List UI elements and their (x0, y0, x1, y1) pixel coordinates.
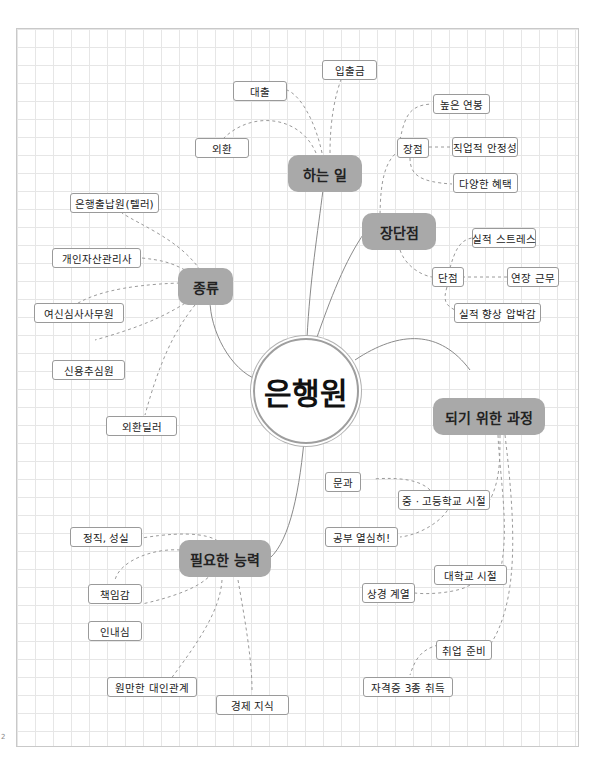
leaf-certificates[interactable]: 자격증 3종 취득 (363, 677, 453, 697)
leaf-label: 개인자산관리사 (62, 251, 132, 266)
leaf-label: 중 · 고등학교 시절 (402, 493, 485, 508)
leaf-job-stability[interactable]: 직업적 안정성 (452, 137, 518, 157)
leaf-label: 문과 (333, 475, 353, 490)
leaf-label: 대출 (250, 84, 270, 99)
leaf-honesty[interactable]: 정직, 성실 (70, 527, 142, 547)
sub-middle-high-school[interactable]: 중 · 고등학교 시절 (398, 490, 490, 510)
leaf-label: 책임감 (100, 587, 130, 602)
sub-job-prep[interactable]: 취업 준비 (436, 640, 492, 660)
leaf-fx-dealer[interactable]: 외환딜러 (106, 416, 177, 436)
sub-college[interactable]: 대학교 시절 (434, 565, 507, 585)
branch-skills[interactable]: 필요한 능력 (179, 540, 271, 577)
leaf-label: 자격증 3종 취득 (371, 680, 444, 695)
leaf-patience[interactable]: 인내심 (88, 621, 142, 641)
leaf-label: 연장 근무 (511, 270, 554, 285)
leaf-deposit-withdrawal[interactable]: 입출금 (322, 60, 377, 80)
leaf-business-major[interactable]: 상경 계열 (362, 583, 415, 603)
leaf-label: 입출금 (335, 63, 365, 78)
branch-types-label: 종류 (193, 277, 219, 297)
leaf-label: 실적 스트레스 (472, 231, 535, 246)
leaf-teller[interactable]: 은행출납원(텔러) (70, 193, 159, 213)
leaf-label: 상경 계열 (367, 586, 410, 601)
leaf-economic-knowledge[interactable]: 경제 지식 (216, 695, 289, 715)
leaf-label: 실적 향상 압박감 (459, 306, 536, 321)
leaf-liberal-arts[interactable]: 문과 (325, 472, 361, 492)
leaf-label: 외환 (212, 141, 232, 156)
leaf-label: 신용추심원 (64, 363, 114, 378)
branch-path[interactable]: 되기 위한 과정 (433, 398, 545, 435)
leaf-label: 공부 열심히! (333, 530, 391, 545)
leaf-performance-stress[interactable]: 실적 스트레스 (472, 228, 536, 248)
leaf-performance-pressure[interactable]: 실적 향상 압박감 (454, 303, 541, 323)
center-label: 은행원 (264, 369, 348, 413)
leaf-high-salary[interactable]: 높은 연봉 (433, 94, 490, 114)
leaf-label: 대학교 시절 (444, 568, 497, 583)
leaf-label: 은행출납원(텔러) (75, 196, 153, 211)
leaf-loan[interactable]: 대출 (233, 81, 287, 101)
center-node[interactable]: 은행원 (253, 338, 359, 444)
leaf-study-hard[interactable]: 공부 열심히! (325, 527, 398, 547)
branch-types[interactable]: 종류 (178, 268, 233, 305)
leaf-collector[interactable]: 신용추심원 (52, 360, 125, 380)
leaf-label: 높은 연봉 (440, 97, 483, 112)
leaf-credit-analyst[interactable]: 여신심사사무원 (34, 303, 124, 323)
leaf-label: 외환딜러 (122, 419, 162, 434)
leaf-label: 단점 (438, 270, 458, 285)
leaf-label: 원만한 대인관계 (115, 680, 188, 695)
leaf-label: 인내심 (100, 624, 130, 639)
leaf-responsibility[interactable]: 책임감 (88, 584, 142, 604)
branch-path-label: 되기 위한 과정 (445, 407, 533, 427)
branch-pros-cons[interactable]: 장단점 (362, 213, 436, 250)
leaf-label: 경제 지식 (231, 698, 274, 713)
leaf-foreign-exchange[interactable]: 외환 (195, 138, 249, 158)
leaf-label: 직업적 안정성 (453, 140, 516, 155)
sub-cons[interactable]: 단점 (432, 267, 464, 287)
leaf-label: 여신심사사무원 (44, 306, 114, 321)
branch-work-label: 하는 일 (303, 164, 347, 184)
leaf-label: 장점 (403, 141, 423, 156)
leaf-label: 취업 준비 (442, 643, 485, 658)
leaf-label: 정직, 성실 (83, 530, 130, 545)
sub-pros[interactable]: 장점 (397, 138, 429, 158)
page-margin-mark: 2 (1, 733, 5, 741)
leaf-asset-manager[interactable]: 개인자산관리사 (52, 248, 141, 268)
leaf-interpersonal[interactable]: 원만한 대인관계 (107, 677, 197, 697)
branch-pros-cons-label: 장단점 (380, 222, 419, 242)
leaf-overtime[interactable]: 연장 근무 (507, 267, 559, 287)
branch-skills-label: 필요한 능력 (190, 549, 260, 569)
leaf-various-benefits[interactable]: 다양한 혜택 (453, 173, 518, 193)
leaf-label: 다양한 혜택 (459, 176, 512, 191)
branch-work[interactable]: 하는 일 (288, 155, 362, 192)
